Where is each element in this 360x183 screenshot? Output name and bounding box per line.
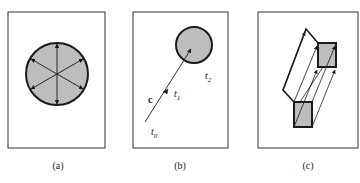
caption-a: (a) [38, 160, 78, 171]
caption-b: (b) [160, 160, 200, 171]
caption-c: (c) [288, 160, 328, 171]
panel-a [8, 12, 105, 148]
figure: c t0 t1 t2 [0, 0, 360, 183]
panel-b: c t0 t1 t2 [133, 12, 228, 148]
vector-c-label: c [148, 94, 153, 105]
panel-c [258, 12, 358, 148]
